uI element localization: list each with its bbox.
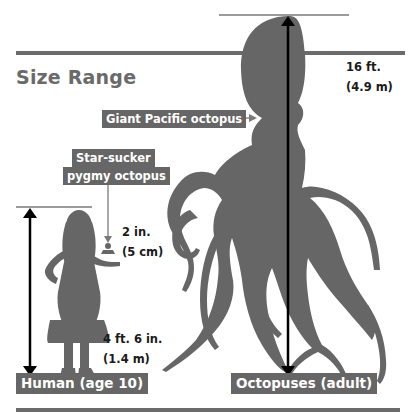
human-m: (1.4 m) [103,349,162,369]
giant-pacific-octopus-label: Giant Pacific octopus [102,110,246,128]
pygmy-in: 2 in. [122,222,163,242]
octopus-measurement: 16 ft. (4.9 m) [346,57,393,97]
star-sucker-label-line1: Star-sucker [72,149,155,167]
human-measurement: 4 ft. 6 in. (1.4 m) [103,329,162,369]
octopuses-label: Octopuses (adult) [231,373,377,394]
human-label: Human (age 10) [16,373,148,394]
pygmy-cm: (5 cm) [122,242,163,262]
human-ft: 4 ft. 6 in. [103,329,162,349]
pygmy-measurement: 2 in. (5 cm) [122,222,163,262]
tiny-octopus-silhouette-icon [101,243,115,254]
octopus-ft: 16 ft. [346,57,393,77]
octopus-m: (4.9 m) [346,77,393,97]
star-sucker-label-line2: pygmy octopus [63,167,170,185]
